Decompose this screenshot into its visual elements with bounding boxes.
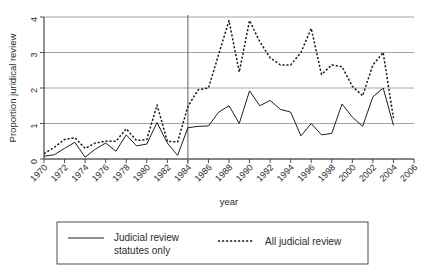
y-axis-title: Proportion juridical review [7,33,18,142]
y-tick-label: 1 [29,124,39,129]
y-tick-label: 0 [29,159,39,164]
y-tick-label: 4 [29,17,39,22]
legend: Judicial review statutes only All judici… [57,222,368,264]
line-chart: 01234 1970197219741976197819801982198419… [0,0,422,272]
legend-label-all-review: All judicial review [265,236,342,247]
y-tick-label: 3 [29,53,39,58]
chart-figure: 01234 1970197219741976197819801982198419… [0,0,422,272]
x-axis-title: year [220,196,238,207]
legend-label-statutes-line1: Judicial review [114,232,180,243]
y-tick-label: 2 [29,88,39,93]
legend-label-statutes-line2: statutes only [114,245,170,256]
